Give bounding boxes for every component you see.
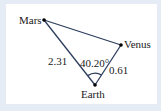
edge-earth-venus-length: 0.61 (109, 65, 128, 76)
earth-point (93, 83, 97, 87)
venus-label: Venus (124, 39, 151, 50)
angle-arc (88, 73, 102, 75)
edge-mars-earth (44, 20, 95, 85)
mars-point (42, 18, 46, 22)
venus-point (119, 43, 123, 47)
edge-mars-venus (44, 20, 121, 45)
angle-label: 40.20° (80, 58, 109, 69)
earth-label: Earth (81, 89, 105, 100)
mars-label: Mars (19, 15, 42, 26)
edge-earth-mars-length: 2.31 (48, 56, 67, 67)
